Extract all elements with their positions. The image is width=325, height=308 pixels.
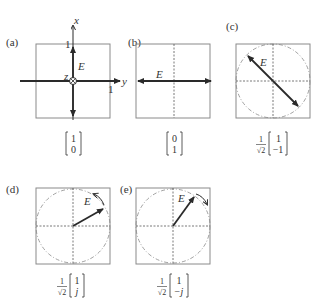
field-label-E: E — [259, 56, 267, 68]
svg-text:1: 1 — [71, 133, 76, 144]
panel-e: (e) E 1 √2 1 −j — [120, 183, 210, 297]
e-field-arrow — [73, 209, 103, 226]
panel-d: (d) E 1 √2 1 j — [6, 183, 110, 297]
panel-label-a: (a) — [6, 36, 19, 49]
panel-label-d: (d) — [6, 183, 19, 196]
jones-vector-e: 1 √2 1 −j — [157, 274, 188, 297]
axis-y-label: y — [121, 75, 127, 87]
axis-z-label: z — [63, 70, 69, 82]
svg-text:1: 1 — [75, 275, 80, 286]
field-label-E: E — [77, 60, 85, 72]
rotation-cw-arrow-icon — [196, 194, 207, 204]
field-label-E: E — [177, 192, 185, 204]
jones-vector-c: 1 √2 1 −1 — [256, 132, 287, 155]
panel-a: (a) x y z 1 1 E 1 0 — [6, 14, 127, 155]
panel-label-c: (c) — [226, 20, 239, 33]
panel-label-e: (e) — [120, 183, 133, 196]
tick-x-label: 1 — [65, 38, 71, 50]
panel-c: (c) E 1 √2 1 −1 — [226, 20, 310, 155]
svg-text:j: j — [74, 286, 79, 297]
svg-text:0: 0 — [172, 133, 177, 144]
jones-vector-a: 1 0 — [66, 132, 81, 155]
svg-text:√2: √2 — [58, 288, 66, 297]
field-label-E: E — [155, 68, 163, 80]
e-field-arrow-downright — [273, 81, 298, 106]
tick-y-label: 1 — [108, 83, 114, 95]
svg-text:1: 1 — [259, 135, 263, 144]
panel-label-b: (b) — [128, 36, 141, 49]
svg-text:1: 1 — [177, 275, 182, 286]
polarization-figure: (a) x y z 1 1 E 1 0 (b) E — [0, 0, 325, 308]
axis-x-label: x — [73, 14, 79, 26]
svg-text:√2: √2 — [257, 146, 265, 155]
svg-text:1: 1 — [60, 277, 64, 286]
jones-vector-b: 0 1 — [167, 132, 182, 155]
svg-text:1: 1 — [160, 277, 164, 286]
jones-vector-d: 1 √2 1 j — [57, 274, 84, 297]
svg-text:0: 0 — [71, 144, 76, 155]
svg-text:−1: −1 — [273, 144, 284, 155]
field-label-E: E — [83, 195, 91, 207]
panel-b: (b) E 0 1 — [128, 36, 211, 155]
svg-text:−j: −j — [174, 286, 184, 297]
svg-text:1: 1 — [276, 133, 281, 144]
svg-text:1: 1 — [172, 144, 177, 155]
svg-text:√2: √2 — [158, 288, 166, 297]
